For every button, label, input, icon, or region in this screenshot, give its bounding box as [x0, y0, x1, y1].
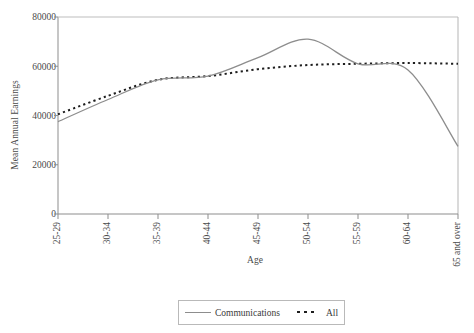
legend-item-communications: Communications [185, 308, 280, 318]
x-tick-label-25-29: 25-29 [51, 222, 65, 284]
chart-legend: Communications All [178, 300, 345, 325]
x-tick-label-30-34: 30-34 [101, 222, 115, 284]
x-tick-label-text: 45-49 [253, 222, 263, 244]
series-line-all [58, 63, 458, 114]
x-tick-label-text: 30-34 [103, 222, 113, 244]
legend-swatch-solid-line-icon [185, 309, 211, 317]
legend-item-all: All [296, 308, 338, 318]
x-tick-label-45-49: 45-49 [251, 222, 265, 284]
x-tick-label-text: 55-59 [353, 222, 363, 244]
x-axis-title: Age [0, 255, 474, 265]
x-tick-label-text: 40-44 [203, 222, 213, 244]
x-axis-title-label: Age [247, 255, 263, 265]
x-tick-label-60-64: 60-64 [401, 222, 415, 284]
x-tick-label-55-59: 55-59 [351, 222, 365, 284]
legend-swatch-dotted-line-icon [296, 309, 322, 317]
legend-label-all: All [326, 308, 338, 318]
y-tick-marks [54, 17, 58, 214]
x-tick-label-text: 35-39 [153, 222, 163, 244]
series-line-communications [58, 39, 458, 146]
x-tick-label-50-54: 50-54 [301, 222, 315, 284]
x-tick-label-35-39: 35-39 [151, 222, 165, 284]
chart-figure: Mean Annual Earnings 0 20000 40000 60000… [0, 0, 474, 333]
legend-label-communications: Communications [215, 308, 280, 318]
x-tick-label-40-44: 40-44 [201, 222, 215, 284]
x-tick-label-text: 50-54 [303, 222, 313, 244]
x-tick-label-text: 25-29 [53, 222, 63, 244]
x-tick-marks [58, 214, 458, 219]
axis-lines [58, 17, 458, 214]
x-tick-label-text: 60-64 [403, 222, 413, 244]
